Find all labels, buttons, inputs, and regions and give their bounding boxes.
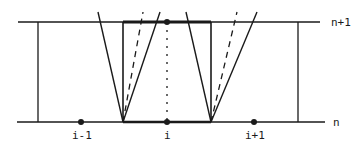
grid-point-i-upper-marker bbox=[164, 19, 170, 25]
label-n: n bbox=[333, 116, 340, 129]
right-wave-fan bbox=[186, 12, 257, 122]
left-wave-fan bbox=[98, 12, 160, 122]
grid-point-i-plus-1-marker bbox=[251, 119, 257, 125]
label-i-plus-1: i+1 bbox=[245, 129, 265, 142]
grid-point-i-minus-1-marker bbox=[78, 119, 84, 125]
label-n-plus-1: n+1 bbox=[331, 16, 351, 29]
grid-point-i-marker bbox=[164, 119, 170, 125]
label-i-minus-1: i-1 bbox=[72, 129, 92, 142]
finite-volume-diagram: n+1 n i-1 i i+1 bbox=[0, 0, 362, 143]
label-i: i bbox=[164, 129, 171, 142]
